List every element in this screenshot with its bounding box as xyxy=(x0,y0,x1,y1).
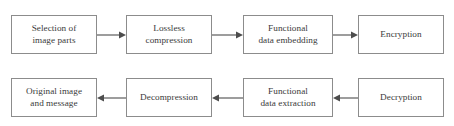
node-lossless-compression[interactable]: Lossless compression xyxy=(126,15,212,54)
flowchart-diagram: Selection of image parts Lossless compre… xyxy=(0,0,454,126)
node-original-image-and-message[interactable]: Original image and message xyxy=(11,78,97,117)
arrow-functional-embedding-to-encryption xyxy=(333,29,358,41)
node-functional-data-extraction[interactable]: Functional data extraction xyxy=(243,78,333,117)
node-decryption[interactable]: Decryption xyxy=(358,78,444,117)
arrow-lossless-to-functional-embedding xyxy=(212,29,243,41)
node-selection-of-image-parts[interactable]: Selection of image parts xyxy=(11,15,97,54)
node-encryption[interactable]: Encryption xyxy=(358,15,444,54)
arrow-functional-extraction-to-decompression xyxy=(212,92,243,104)
node-functional-data-embedding[interactable]: Functional data embedding xyxy=(243,15,333,54)
arrow-decryption-to-functional-extraction xyxy=(333,92,358,104)
arrow-selection-to-lossless xyxy=(97,29,126,41)
node-decompression[interactable]: Decompression xyxy=(126,78,212,117)
arrow-decompression-to-original-image xyxy=(97,92,126,104)
